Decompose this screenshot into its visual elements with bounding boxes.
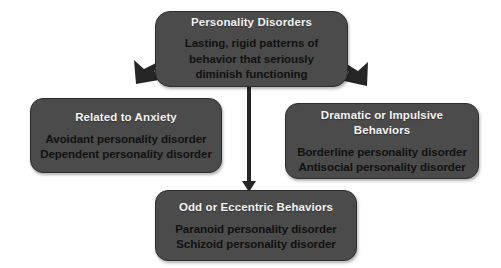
node-body-line: Paranoid personality disorder: [175, 222, 337, 237]
node-personality-disorders: Personality Disorders Lasting, rigid pat…: [155, 11, 348, 87]
diagram-canvas: Personality Disorders Lasting, rigid pat…: [0, 0, 501, 268]
node-body-line: Avoidant personality disorder: [40, 132, 212, 147]
node-dramatic-or-impulsive-behaviors: Dramatic or Impulsive Behaviors Borderli…: [285, 103, 479, 179]
node-body: Borderline personality disorder Antisoci…: [297, 145, 467, 174]
node-body-line: Borderline personality disorder: [297, 145, 467, 160]
node-body-line: Dependent personality disorder: [40, 147, 212, 162]
node-body-line: diminish functioning: [185, 67, 319, 83]
node-body-line: Lasting, rigid patterns of: [185, 36, 319, 52]
node-odd-or-eccentric-behaviors: Odd or Eccentric Behaviors Paranoid pers…: [155, 190, 357, 261]
node-body-line: Antisocial personality disorder: [297, 160, 467, 175]
node-heading: Personality Disorders: [191, 15, 312, 30]
node-related-to-anxiety: Related to Anxiety Avoidant personality …: [30, 98, 222, 173]
node-body: Lasting, rigid patterns of behavior that…: [185, 36, 319, 83]
node-body: Avoidant personality disorder Dependent …: [40, 132, 212, 161]
node-heading: Odd or Eccentric Behaviors: [179, 200, 333, 215]
node-body-line: Schizoid personality disorder: [175, 237, 337, 252]
node-heading: Dramatic or Impulsive Behaviors: [292, 108, 472, 138]
node-body: Paranoid personality disorder Schizoid p…: [175, 222, 337, 251]
node-heading: Related to Anxiety: [75, 110, 177, 125]
node-body-line: behavior that seriously: [185, 52, 319, 68]
connector-root-to-odd: [242, 86, 256, 192]
